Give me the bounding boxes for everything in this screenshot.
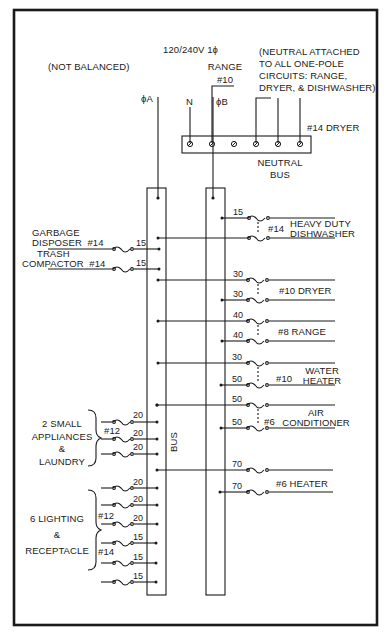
neutral-bus-label: NEUTRAL BUS (255, 157, 305, 181)
bus-b (206, 188, 225, 595)
not-balanced-note: (NOT BALANCED) (48, 61, 129, 72)
heater-label: #6 HEATER (276, 478, 328, 489)
dishwasher-label: HEAVY DUTY DISHWASHER (290, 219, 355, 238)
breaker-amps: 20 (133, 428, 143, 439)
breaker-amps: 15 (133, 571, 143, 582)
water-heater-wire: #10 (276, 373, 292, 384)
breaker-amps: 15 (133, 532, 143, 543)
garbage-disposer-label: GARBAGE DISPOSER #14 (32, 228, 104, 248)
trash-compactor-label: TRASH COMPACTOR #14 (22, 249, 105, 269)
breaker-amps: 50 (232, 417, 242, 428)
dishwasher-wire: #14 (268, 223, 284, 234)
breaker-amps: 20 (133, 442, 143, 453)
breaker-amps: 40 (233, 330, 243, 341)
water-heater-label: WATER HEATER (296, 366, 348, 385)
lighting-wire-12: #12 (98, 510, 114, 521)
garbage-disposer-amps: 15 (136, 238, 146, 249)
range-label: RANGE #10 (207, 60, 243, 86)
neutral-label: N (186, 96, 193, 107)
breaker-amps: 30 (233, 289, 243, 300)
neutral-terminals (187, 141, 302, 146)
range-neutral-wire (212, 86, 234, 143)
breaker-amps: 20 (133, 477, 143, 488)
lighting-wire-14: #14 (98, 546, 114, 557)
small-appliances-label: 2 SMALL APPLIANCES & LAUNDRY (28, 418, 96, 468)
small-appliances-wire: #12 (104, 425, 120, 436)
range-circuit-label: #8 RANGE (278, 326, 326, 337)
breaker-amps: 30 (232, 352, 242, 363)
breaker-amps: 20 (133, 410, 143, 421)
breaker-amps: 70 (232, 459, 242, 470)
breaker-amps: 20 (133, 494, 143, 505)
left-bus-dots (155, 248, 161, 584)
breaker-amps: 30 (233, 269, 243, 280)
neutral-note: (NEUTRAL ATTACHED TO ALL ONE-POLE CIRCUI… (259, 46, 376, 94)
right-breakers (157, 216, 335, 495)
bus-label: BUS (168, 432, 179, 452)
dryer-label: #10 DRYER (279, 285, 332, 296)
breaker-amps: 15 (233, 207, 243, 218)
trash-compactor-amps: 15 (136, 258, 146, 269)
neutral-bus (182, 136, 311, 153)
air-conditioner-wire: #6 (264, 416, 275, 427)
voltage-title: 120/240V 1ϕ (163, 44, 218, 55)
breaker-amps: 20 (133, 513, 143, 524)
air-conditioner-label: AIR CONDITIONER (280, 408, 352, 427)
breaker-amps: 70 (232, 481, 242, 492)
breaker-amps: 15 (133, 552, 143, 563)
breaker-amps: 50 (232, 374, 242, 385)
phase-a-label: ϕA (141, 93, 153, 104)
phase-b-label: ϕB (216, 96, 228, 107)
lighting-label: 6 LIGHTING & RECEPTACLE (22, 511, 92, 559)
dryer-neutral-label: #14 DRYER (307, 122, 359, 133)
breaker-amps: 50 (232, 394, 242, 405)
breaker-amps: 40 (233, 310, 243, 321)
